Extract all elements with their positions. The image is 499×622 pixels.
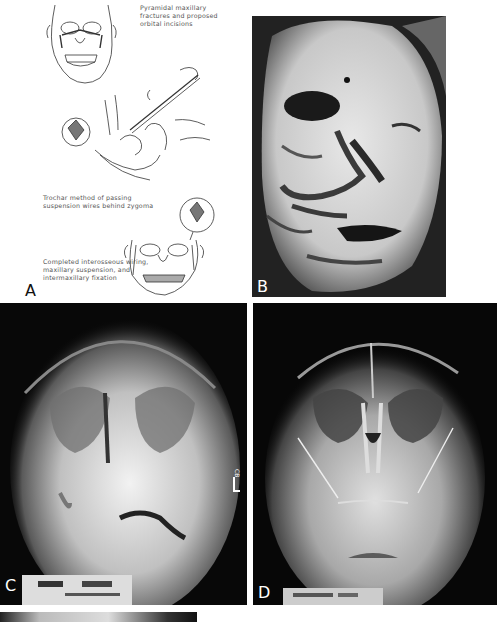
panel-label-a: A xyxy=(25,283,36,299)
caption-completed-wiring: Completed interosseous wiring, maxillary… xyxy=(43,258,149,282)
panel-c-radiograph: CB C xyxy=(0,303,247,605)
facial-injury-photo xyxy=(252,16,446,297)
partial-xray xyxy=(0,612,197,622)
caption-trochar-method: Trochar method of passing suspension wir… xyxy=(43,194,153,210)
panel-a-illustration: Pyramidal maxillary fractures and propos… xyxy=(0,0,240,300)
panel-d-radiograph: D xyxy=(253,303,497,605)
surgical-illustration xyxy=(0,0,240,300)
side-marker: CB xyxy=(233,463,241,493)
panel-b-photograph: B xyxy=(252,16,446,297)
skull-xray-postop xyxy=(253,303,497,605)
svg-text:CB: CB xyxy=(234,469,241,477)
panel-label-c: C xyxy=(5,578,16,594)
skull-xray-preop xyxy=(0,303,247,605)
panel-label-d: D xyxy=(258,585,270,601)
panel-label-b: B xyxy=(257,279,268,295)
caption-pyramidal-fractures: Pyramidal maxillary fractures and propos… xyxy=(140,4,218,28)
panel-e-radiograph-partial xyxy=(0,612,197,622)
